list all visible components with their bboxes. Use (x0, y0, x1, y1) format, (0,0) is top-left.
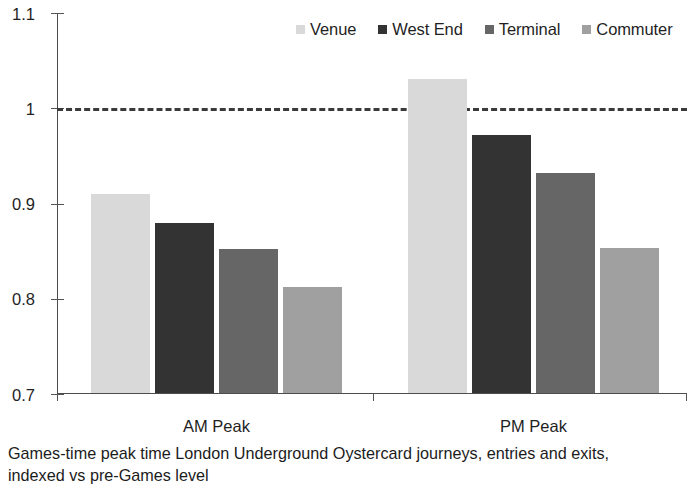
plot-area: 1.110.90.80.7 AM PeakPM Peak (57, 13, 687, 394)
chart-caption: Games-time peak time London Underground … (8, 442, 668, 486)
y-tick-0.8: 0.8 (51, 299, 64, 300)
bar-pm-peak-commuter (600, 248, 659, 393)
y-tick-label: 0.8 (12, 290, 35, 309)
x-axis-label-pm-peak: PM Peak (500, 417, 567, 436)
y-tick-label: 0.7 (12, 385, 35, 404)
bar-chart-figure: VenueWest EndTerminalCommuter 1.110.90.8… (0, 0, 687, 488)
bar-am-peak-commuter (283, 287, 342, 393)
y-tick-label: 1 (26, 99, 35, 118)
bar-am-peak-west-end (155, 223, 214, 393)
bar-am-peak-venue (91, 194, 150, 393)
bar-pm-peak-west-end (472, 135, 531, 393)
bar-pm-peak-terminal (536, 173, 595, 393)
y-tick-label: 0.9 (12, 195, 35, 214)
bar-am-peak-terminal (219, 249, 278, 393)
x-axis-divider-tick (373, 394, 374, 401)
x-axis-label-am-peak: AM Peak (183, 417, 250, 436)
y-tick-label: 1.1 (12, 4, 35, 23)
x-axis-line (57, 393, 687, 394)
bar-pm-peak-venue (408, 79, 467, 393)
y-tick-0.9: 0.9 (51, 204, 64, 205)
x-axis-start-tick (57, 394, 58, 401)
reference-line-1.0 (57, 108, 687, 111)
y-tick-1.1: 1.1 (51, 13, 64, 14)
